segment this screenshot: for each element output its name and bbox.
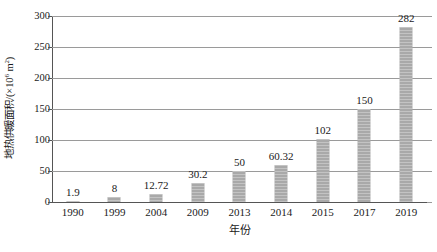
y-axis-tick-right <box>427 47 432 48</box>
y-axis-tick-right <box>427 140 432 141</box>
bar-slot: 30.2 <box>177 16 219 202</box>
bar-slot: 102 <box>302 16 344 202</box>
bar-value-label: 50 <box>234 157 245 168</box>
bar-slot: 1.9 <box>52 16 94 202</box>
y-axis-title: 地热供暖面积/(×106 m2) <box>2 10 18 206</box>
y-axis-tick-label: 250 <box>20 42 50 52</box>
x-axis-tick-label: 2009 <box>187 205 209 219</box>
bar-series: 1.9812.7230.25060.32102150282 <box>52 16 427 202</box>
bar-slot: 50 <box>219 16 261 202</box>
bar[interactable] <box>191 183 204 202</box>
bar-value-label: 60.32 <box>269 151 294 162</box>
bar-value-label: 102 <box>315 125 332 136</box>
bar[interactable] <box>275 165 288 202</box>
bar-slot: 282 <box>385 16 427 202</box>
y-axis-title-tail: m <box>4 64 15 75</box>
bar-value-label: 12.72 <box>144 180 169 191</box>
y-axis-tick-label: 100 <box>20 135 50 145</box>
x-axis-tick-label: 1999 <box>104 205 126 219</box>
y-axis-tick-label: 50 <box>20 166 50 176</box>
bar-slot: 8 <box>94 16 136 202</box>
x-axis-title: 年份 <box>52 223 427 237</box>
bar-slot: 60.32 <box>260 16 302 202</box>
y-axis-tick-right <box>427 171 432 172</box>
x-axis-tick-label: 2004 <box>145 205 167 219</box>
bar-value-label: 1.9 <box>66 187 80 198</box>
x-axis-tick-label: 2015 <box>312 205 334 219</box>
bar-slot: 150 <box>344 16 386 202</box>
bar[interactable] <box>108 197 121 202</box>
bar-value-label: 30.2 <box>188 169 207 180</box>
y-axis-tick-labels: 050100150200250300 <box>20 16 50 202</box>
axis-baseline <box>52 202 427 203</box>
bar[interactable] <box>400 27 413 202</box>
plot-area: 1.9812.7230.25060.32102150282 <box>52 16 427 202</box>
y-axis-title-unit-exponent: 2 <box>3 60 11 63</box>
bar-chart: 地热供暖面积/(×106 m2) 050100150200250300 1.98… <box>0 0 437 252</box>
y-axis-tick-right <box>427 78 432 79</box>
y-axis-tick-right <box>427 109 432 110</box>
y-axis-title-exponent: 6 <box>3 74 11 77</box>
bar[interactable] <box>358 109 371 202</box>
bar[interactable] <box>233 171 246 202</box>
x-axis-tick-label: 2019 <box>395 205 417 219</box>
y-axis-tick-right <box>427 16 432 17</box>
y-axis-tick-label: 300 <box>20 11 50 21</box>
bar-value-label: 150 <box>356 95 373 106</box>
y-axis-title-text: 地热供暖面积/(×10 <box>4 78 15 160</box>
x-axis-tick-label: 2013 <box>229 205 251 219</box>
y-axis-tick-label: 150 <box>20 104 50 114</box>
x-axis-tick-labels: 199019992004200920132014201520172019 <box>52 205 427 221</box>
x-axis-tick-label: 2017 <box>354 205 376 219</box>
y-axis-tick-right <box>427 202 432 203</box>
y-axis-tick-label: 0 <box>20 197 50 207</box>
x-axis-tick-label: 2014 <box>270 205 292 219</box>
bar[interactable] <box>66 201 79 202</box>
bar-slot: 12.72 <box>135 16 177 202</box>
bar[interactable] <box>316 139 329 202</box>
y-axis-tick-label: 200 <box>20 73 50 83</box>
y-axis-tick <box>48 202 52 203</box>
bar-value-label: 282 <box>398 13 415 24</box>
bar-value-label: 8 <box>112 183 118 194</box>
x-axis-tick-label: 1990 <box>62 205 84 219</box>
bar[interactable] <box>150 194 163 202</box>
y-axis-title-close: ) <box>4 57 15 60</box>
